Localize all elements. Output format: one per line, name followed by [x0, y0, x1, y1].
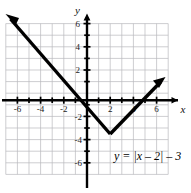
x-tick-label: -2 — [60, 104, 68, 114]
x-axis-label: x — [180, 103, 186, 115]
equation-annotation: y = |x – 2| – 3 — [113, 149, 181, 163]
y-tick-label: 6 — [76, 19, 81, 29]
graph-figure: -6 -4 -2 2 4 6 6 4 2 -2 -4 -6 y x — [0, 0, 191, 193]
y-axis-arrow-icon — [84, 14, 91, 21]
x-tick-label: 2 — [108, 104, 113, 114]
curve-right-branch — [110, 82, 160, 134]
x-tick-label: 6 — [154, 104, 159, 114]
y-tick-label: -6 — [75, 158, 83, 168]
y-axis-label: y — [74, 4, 80, 16]
x-axis-arrow-icon — [172, 97, 179, 103]
y-tick-label: -2 — [75, 112, 83, 122]
coordinate-plane: -6 -4 -2 2 4 6 6 4 2 -2 -4 -6 y x — [0, 0, 191, 193]
x-tick-label: -6 — [14, 104, 22, 114]
y-tick-label: 2 — [76, 65, 81, 75]
equation-label: y = |x – 2| – 3 — [113, 149, 181, 163]
y-tick-label: 4 — [76, 42, 81, 52]
y-tick-label: -4 — [75, 135, 83, 145]
x-tick-label: -4 — [37, 104, 45, 114]
